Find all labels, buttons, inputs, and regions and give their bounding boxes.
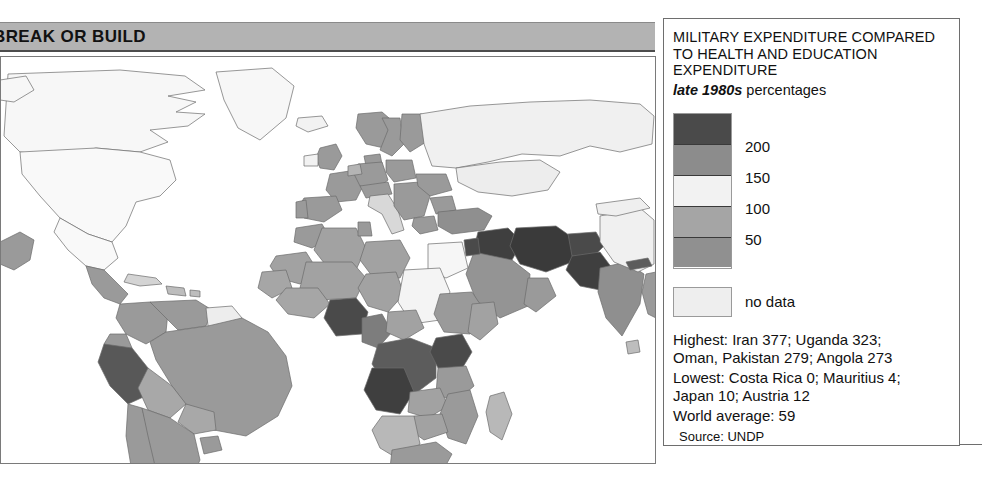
world-choropleth-map[interactable]	[0, 56, 656, 464]
legend-label-100: 100	[745, 201, 770, 216]
region-sri-lanka	[626, 340, 640, 354]
region-tunisia	[358, 222, 372, 236]
stat-lowest: Lowest: Costa Rica 0; Mauritius 4; Japan…	[673, 369, 951, 405]
legend-band-under-50	[674, 237, 731, 268]
region-turkey	[438, 208, 492, 234]
stat-highest: Highest: Iran 377; Uganda 323; Oman, Pak…	[673, 331, 951, 367]
legend-band-150-200	[674, 144, 731, 175]
chapter-header-band: BREAK OR BUILD	[0, 22, 655, 52]
world-map-frame	[0, 56, 656, 464]
legend-subtitle-emphasis: late 1980s	[673, 82, 742, 98]
map-page: BREAK OR BUILD	[0, 0, 982, 483]
region-portugal	[296, 200, 308, 218]
legend-band-over-200	[674, 114, 731, 145]
region-puerto-rico	[190, 290, 200, 297]
legend-subtitle: late 1980s percentages	[673, 82, 951, 99]
legend-color-ramp	[673, 113, 732, 269]
region-israel-jordan	[464, 238, 480, 256]
legend-band-100-150	[674, 175, 731, 206]
legend-scale-labels: 200 150 100 50	[745, 113, 865, 269]
legend-source: Source: UNDP	[679, 429, 951, 445]
legend-band-50-100	[674, 206, 731, 237]
legend-label-200: 200	[745, 139, 770, 154]
legend-no-data-label: no data	[745, 293, 795, 310]
legend-scale: 200 150 100 50	[673, 113, 951, 269]
legend-no-data-row: no data	[673, 287, 951, 317]
legend-title: MILITARY EXPENDITURE COMPARED TO HEALTH …	[673, 29, 951, 79]
legend-statistics: Highest: Iran 377; Uganda 323; Oman, Pak…	[673, 331, 951, 445]
panel-side-rule	[959, 444, 982, 445]
region-benelux	[348, 164, 362, 176]
legend-subtitle-rest: percentages	[742, 82, 826, 98]
chapter-title: BREAK OR BUILD	[0, 27, 146, 47]
region-ireland	[304, 154, 318, 166]
legend-label-50: 50	[745, 232, 762, 247]
map-legend-panel: MILITARY EXPENDITURE COMPARED TO HEALTH …	[663, 18, 960, 446]
legend-label-150: 150	[745, 170, 770, 185]
stat-world-average: World average: 59	[673, 407, 951, 425]
legend-no-data-swatch	[673, 287, 732, 317]
